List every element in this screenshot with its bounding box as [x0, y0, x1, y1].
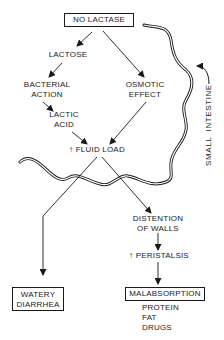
item-fat: FAT [142, 313, 192, 323]
curved-pointer-arrow [197, 66, 209, 84]
increase-arrow-icon: ↑ [69, 145, 73, 154]
watery-line-1: WATERY [13, 290, 63, 300]
lactic-line-1: LACTIC [46, 110, 82, 120]
watery-line-2: DIARRHEA [13, 300, 63, 310]
increase-arrow-icon: ↑ [129, 251, 133, 260]
malabsorption-box: MALABSORPTION [125, 287, 205, 301]
lactic-acid-label: LACTIC ACID [46, 110, 82, 130]
fluid-load-label: ↑ FLUID LOAD [64, 145, 130, 155]
osmotic-line-1: OSMOTIC [121, 80, 169, 90]
bacterial-line-1: BACTERIAL [20, 80, 74, 90]
distention-line-2: OF WALLS [126, 224, 190, 234]
fluid-load-text: FLUID LOAD [76, 145, 125, 154]
bacterial-line-2: ACTION [20, 90, 74, 100]
distention-line-1: DISTENTION [126, 214, 190, 224]
lactose-label: LACTOSE [48, 50, 88, 60]
peristalsis-text: PERISTALSIS [136, 251, 189, 260]
osmotic-line-2: EFFECT [121, 90, 169, 100]
osmotic-effect-label: OSMOTIC EFFECT [121, 80, 169, 100]
small-intestine-label: SMALL INTESTINE [204, 84, 213, 166]
distention-label: DISTENTION OF WALLS [126, 214, 190, 234]
malabsorption-items: PROTEIN FAT DRUGS [142, 303, 192, 333]
lactic-line-2: ACID [46, 120, 82, 130]
bacterial-action-label: BACTERIAL ACTION [20, 80, 74, 100]
no-lactase-box: NO LACTASE [64, 13, 134, 27]
item-protein: PROTEIN [142, 303, 192, 313]
item-drugs: DRUGS [142, 323, 192, 333]
watery-diarrhea-box: WATERY DIARRHEA [12, 287, 64, 311]
peristalsis-label: ↑ PERISTALSIS [124, 251, 194, 261]
